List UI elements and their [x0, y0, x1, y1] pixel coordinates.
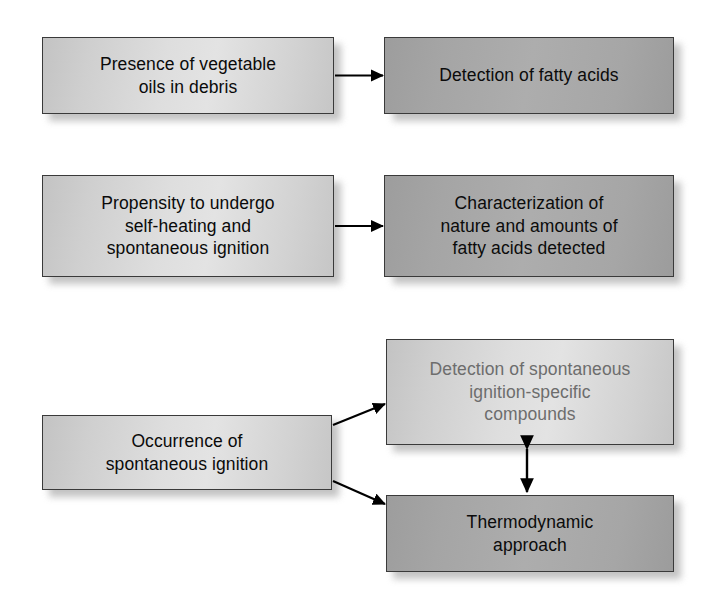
node-characterization-of-fatty-acids[interactable]: Characterization of nature and amounts o… — [384, 175, 674, 277]
node-label: Occurrence of spontaneous ignition — [98, 430, 277, 476]
arrow-row3-upper — [333, 404, 385, 425]
node-label: Presence of vegetable oils in debris — [92, 53, 284, 99]
node-occurrence-of-spontaneous-ignition[interactable]: Occurrence of spontaneous ignition — [42, 415, 332, 490]
diagram-canvas: Presence of vegetable oils in debris Det… — [0, 0, 712, 614]
node-presence-of-vegetable-oils[interactable]: Presence of vegetable oils in debris — [42, 37, 334, 114]
arrow-row3-lower — [333, 481, 385, 504]
node-label: Detection of fatty acids — [431, 64, 626, 87]
node-label: Thermodynamic approach — [459, 511, 602, 557]
node-label: Detection of spontaneous ignition-specif… — [422, 358, 639, 426]
node-propensity-to-undergo-self-heating[interactable]: Propensity to undergo self-heating and s… — [42, 175, 334, 277]
node-thermodynamic-approach[interactable]: Thermodynamic approach — [386, 495, 674, 572]
node-label: Propensity to undergo self-heating and s… — [93, 192, 282, 260]
node-detection-of-ignition-specific-compounds[interactable]: Detection of spontaneous ignition-specif… — [386, 339, 674, 445]
node-label: Characterization of nature and amounts o… — [432, 192, 625, 260]
node-detection-of-fatty-acids[interactable]: Detection of fatty acids — [384, 37, 674, 114]
